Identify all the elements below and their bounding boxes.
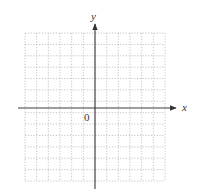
origin-label: 0 <box>84 111 90 123</box>
coordinate-plane: x y 0 <box>0 0 198 195</box>
x-axis-label: x <box>181 101 187 113</box>
y-axis-label: y <box>90 10 96 22</box>
